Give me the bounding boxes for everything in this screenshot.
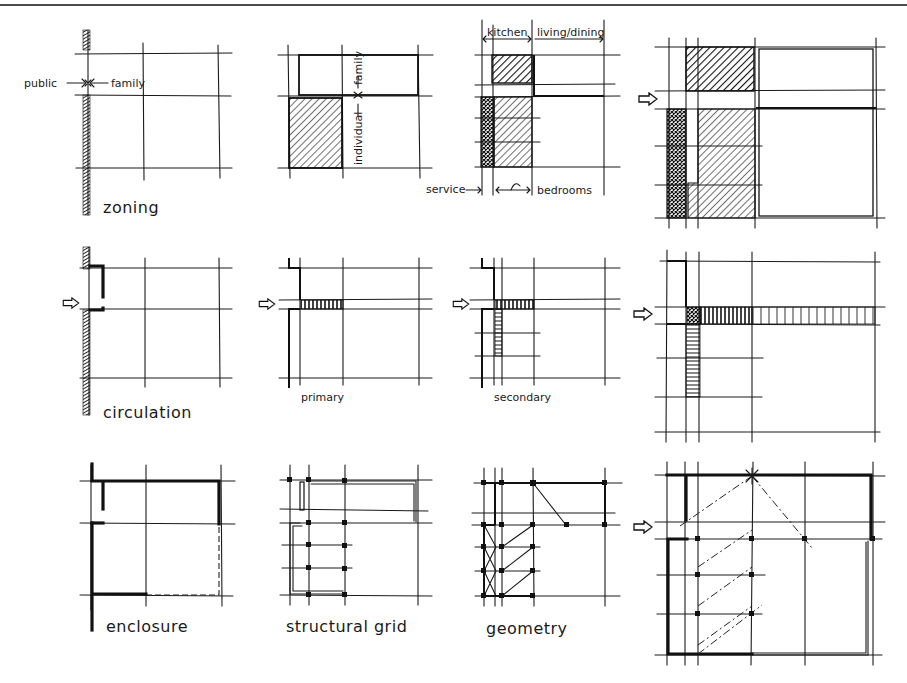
primary-label: primary — [301, 391, 345, 404]
diagram-sheet: public family zoning individual family — [0, 0, 907, 683]
panel-primary: primary — [259, 258, 432, 404]
secondary-label: secondary — [494, 391, 551, 404]
zoning-label: zoning — [103, 198, 159, 217]
circulation-label: circulation — [103, 403, 192, 422]
enclosure-label: enclosure — [106, 617, 188, 636]
panel-structural-grid: structural grid — [280, 465, 432, 636]
panel-circulation: circulation — [63, 247, 232, 422]
arrow-right-icon — [259, 299, 274, 309]
structural-grid-label: structural grid — [286, 617, 407, 636]
panel-secondary: secondary — [453, 258, 620, 404]
panel-final-plan — [634, 462, 885, 665]
kitchen-label: kitchen — [487, 26, 528, 39]
panel-enclosure: enclosure — [80, 464, 235, 636]
arrow-right-icon — [63, 298, 78, 308]
panel-program: kitchen living/dining service bedrooms — [426, 20, 620, 197]
family-label: family — [111, 77, 145, 90]
panel-family-individual: individual family — [278, 45, 433, 178]
panel-circulation-plan — [634, 250, 885, 442]
arrow-right-icon — [639, 93, 657, 105]
panel-zoning: public family zoning — [24, 30, 232, 217]
geometry-label: geometry — [486, 619, 568, 638]
arrow-right-icon — [634, 521, 652, 533]
service-label: service — [426, 183, 466, 196]
arrow-right-icon — [453, 299, 468, 309]
arrow-right-icon — [634, 308, 652, 320]
individual-label: individual — [352, 112, 365, 165]
panel-zoning-plan — [639, 38, 885, 228]
living-dining-label: living/dining — [537, 26, 604, 39]
panel-geometry: geometry — [472, 468, 622, 638]
public-label: public — [24, 77, 57, 90]
bedrooms-label: bedrooms — [537, 184, 592, 197]
